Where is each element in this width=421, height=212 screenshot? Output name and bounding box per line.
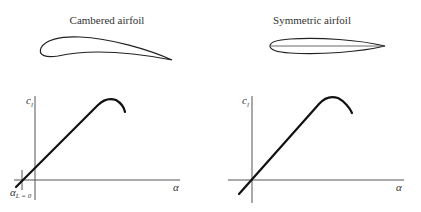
x-axis-label-symmetric: α <box>396 181 402 193</box>
lift-curve-symmetric <box>239 97 352 194</box>
y-axis-label-symmetric: cl <box>242 94 249 109</box>
panel-title-cambered: Cambered airfoil <box>70 14 145 26</box>
y-axis-label-cambered: cl <box>26 94 33 109</box>
lift-curve-cambered <box>16 99 125 187</box>
zero-lift-angle-label: αL = 0 <box>10 186 32 200</box>
x-axis-label-cambered: α <box>173 181 179 193</box>
panel-cambered: Cambered airfoil cl α αL = 0 <box>10 14 180 200</box>
diagram-canvas: Cambered airfoil cl α αL = 0 Symmetric a… <box>0 0 421 212</box>
cambered-airfoil-shape <box>40 37 172 60</box>
panel-title-symmetric: Symmetric airfoil <box>273 14 351 26</box>
panel-symmetric: Symmetric airfoil cl α <box>228 14 404 203</box>
